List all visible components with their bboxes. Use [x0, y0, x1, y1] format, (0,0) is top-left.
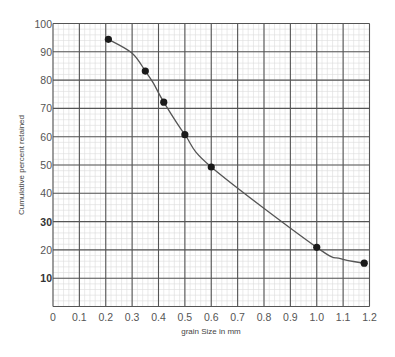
y-tick-label: 80	[40, 74, 52, 86]
x-axis-ticks: 00.10.20.30.40.50.60.70.80.91.01.11.2	[50, 311, 377, 323]
data-point	[160, 99, 167, 106]
x-tick-label: 1.1	[336, 311, 351, 323]
y-tick-label: 60	[40, 131, 52, 143]
y-tick-label: 30	[40, 216, 52, 228]
data-point	[313, 244, 320, 251]
x-axis-title: grain Size in mm	[181, 327, 241, 336]
x-tick-label: 0.3	[125, 311, 140, 323]
y-tick-label: 20	[40, 244, 52, 256]
x-tick-label: 1.2	[362, 311, 377, 323]
x-tick-label: 0.8	[257, 311, 272, 323]
y-tick-label: 50	[40, 159, 52, 171]
x-tick-label: 0.5	[178, 311, 193, 323]
x-tick-label: 0	[50, 311, 56, 323]
y-axis-title: Cumulative percent retained	[17, 115, 26, 215]
data-point	[105, 36, 112, 43]
grain-size-chart: 00.10.20.30.40.50.60.70.80.91.01.11.2 10…	[0, 0, 395, 357]
y-tick-label: 100	[34, 18, 52, 30]
data-point	[181, 131, 188, 138]
x-tick-label: 0.9	[283, 311, 298, 323]
y-tick-label: 90	[40, 46, 52, 58]
series-group	[105, 36, 368, 267]
y-axis-ticks: 102030405060708090100	[34, 18, 52, 285]
x-tick-label: 1.0	[309, 311, 324, 323]
data-point	[208, 163, 215, 170]
x-tick-label: 0.4	[151, 311, 166, 323]
x-tick-label: 0.2	[98, 311, 113, 323]
y-tick-label: 10	[40, 272, 52, 284]
data-point	[361, 260, 368, 267]
x-tick-label: 0.6	[204, 311, 219, 323]
y-tick-label: 70	[40, 102, 52, 114]
x-tick-label: 0.1	[72, 311, 87, 323]
data-point	[142, 67, 149, 74]
y-tick-label: 40	[40, 187, 52, 199]
x-tick-label: 0.7	[230, 311, 245, 323]
